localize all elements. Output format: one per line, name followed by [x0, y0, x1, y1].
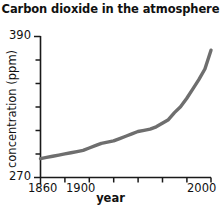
x-axis-title: year	[0, 192, 221, 204]
y-axis-tick-label-max: 390	[9, 29, 31, 41]
co2-line-chart: Carbon dioxide in the atmosphere	[0, 0, 221, 205]
y-axis-title: concentration (ppm)	[6, 50, 18, 168]
co2-data-line	[41, 50, 212, 158]
plot-area	[0, 0, 221, 205]
y-axis-ticks	[34, 37, 41, 178]
